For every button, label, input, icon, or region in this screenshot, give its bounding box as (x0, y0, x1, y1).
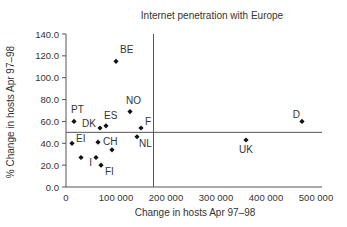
x-tick-label: 200 000 (149, 192, 183, 203)
x-tick-label: 0 (63, 192, 68, 203)
point-label: EI (76, 133, 85, 144)
data-points: BEPTDKESNOFNLEICHIFIUKD (69, 44, 304, 177)
data-point-marker (103, 123, 108, 128)
point-label: FI (105, 166, 114, 177)
data-point-marker (95, 140, 100, 145)
point-label: BE (120, 44, 134, 55)
y-tick-label: 20.0 (41, 160, 60, 171)
y-tick-label: 140.0 (35, 29, 59, 40)
point-label: ES (104, 110, 118, 121)
y-tick-label: 120.0 (35, 50, 59, 61)
point-label: NO (126, 95, 141, 106)
point-label: DK (82, 118, 96, 129)
data-point-marker (113, 59, 118, 64)
data-point-marker (93, 155, 98, 160)
data-point-marker (299, 119, 304, 124)
x-tick-label: 500 000 (299, 192, 333, 203)
scatter-chart: Internet penetration with Europe 0.020.0… (0, 0, 347, 227)
y-axis-label: % Change in hosts Apr 97–98 (5, 45, 16, 178)
data-point-marker (98, 163, 103, 168)
point-label: F (145, 116, 151, 127)
data-point-marker (138, 125, 143, 130)
y-tick-label: 0.0 (46, 182, 59, 193)
x-tick-label: 300 000 (199, 192, 233, 203)
y-axis: 0.020.040.060.080.0100.0120.0140.0 (35, 29, 66, 193)
data-point-marker (69, 141, 74, 146)
y-tick-label: 60.0 (41, 116, 60, 127)
y-tick-label: 100.0 (35, 72, 59, 83)
point-label: CH (103, 136, 117, 147)
point-label: D (293, 109, 300, 120)
x-tick-label: 400 000 (249, 192, 283, 203)
data-point-marker (127, 109, 132, 114)
point-label: UK (239, 144, 253, 155)
x-tick-label: 100 000 (99, 192, 133, 203)
data-point-marker (78, 155, 83, 160)
data-point-marker (109, 147, 114, 152)
y-tick-label: 40.0 (41, 138, 60, 149)
data-point-marker (243, 137, 248, 142)
x-axis-label: Change in hosts Apr 97–98 (135, 207, 256, 218)
data-point-marker (97, 125, 102, 130)
x-axis: 0100 000200 000300 000400 000500 000 (63, 187, 333, 203)
chart-title: Internet penetration with Europe (141, 10, 284, 21)
data-point-marker (71, 119, 76, 124)
point-label: I (89, 157, 92, 168)
point-label: PT (71, 104, 84, 115)
y-tick-label: 80.0 (41, 94, 60, 105)
point-label: NL (139, 138, 152, 149)
